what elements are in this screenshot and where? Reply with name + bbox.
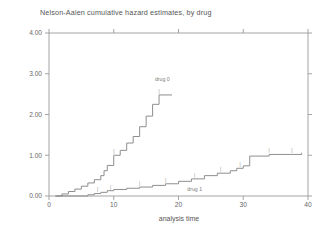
axis-ticks: [45, 29, 312, 200]
censor-tick: |: [110, 185, 111, 190]
axis-tick-labels: 0102030400.001.002.003.004.00: [29, 29, 312, 208]
x-tick-label: 20: [175, 201, 183, 208]
step-curve-drug-1: [55, 153, 301, 196]
y-tick-label: 0.00: [29, 192, 42, 199]
step-curve-drug-0: [55, 95, 172, 196]
chart-screenshot: Nelson-Aalen cumulative hazard estimates…: [0, 0, 318, 229]
censor-tick: |: [139, 181, 140, 186]
censor-tick: |: [291, 148, 292, 153]
censor-tick: |: [239, 162, 240, 167]
y-tick-label: 4.00: [29, 29, 42, 36]
x-tick-label: 10: [110, 201, 118, 208]
censor-tick: |: [158, 89, 159, 94]
x-tick-label: 0: [47, 201, 51, 208]
series-label-drug-0: drug 0: [155, 76, 170, 82]
x-tick-label: 30: [240, 201, 248, 208]
y-tick-label: 1.00: [29, 152, 42, 159]
nelson-aalen-plot: 0102030400.001.002.003.004.00 ||||||||||…: [0, 0, 318, 229]
series-label-drug-1: drug 1: [187, 186, 202, 192]
step-curves: [55, 95, 301, 196]
censor-tick: |: [97, 187, 98, 192]
censor-tick: |: [220, 167, 221, 172]
x-axis-title: analysis time: [159, 215, 200, 223]
y-tick-label: 3.00: [29, 70, 42, 77]
censor-tick: |: [113, 149, 114, 154]
censor-tick: |: [269, 148, 270, 153]
censor-tick: |: [194, 173, 195, 178]
y-tick-label: 2.00: [29, 111, 42, 118]
plot-frame: [49, 33, 308, 196]
censoring-marks: |||||||||||: [97, 89, 292, 193]
censor-tick: |: [165, 178, 166, 183]
x-tick-label: 40: [304, 201, 312, 208]
